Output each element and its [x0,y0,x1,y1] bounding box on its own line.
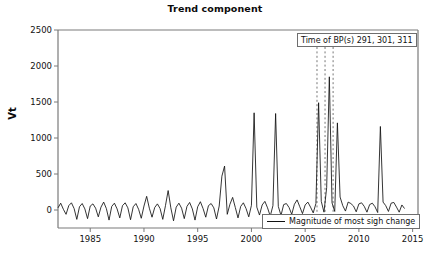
x-tick-label: 1990 [124,234,164,244]
legend-entry-label: Magnitude of most sigh change [289,217,415,226]
x-tick-label: 1995 [178,234,218,244]
x-tick-label: 2010 [339,234,379,244]
breakpoint-annotation-box: Time of BP(s) 291, 301, 311 [297,33,417,47]
x-tick-label: 1985 [70,234,110,244]
x-tick-label: 2015 [393,234,430,244]
chart-legend: Magnitude of most sigh change [262,214,420,229]
legend-line-swatch [267,221,285,222]
x-tick-label: 2000 [231,234,271,244]
chart-figure: Trend component Vt 05001000150020002500 … [0,0,430,274]
x-tick-label: 2005 [285,234,325,244]
breakpoint-annotation-text: Time of BP(s) 291, 301, 311 [301,36,413,45]
